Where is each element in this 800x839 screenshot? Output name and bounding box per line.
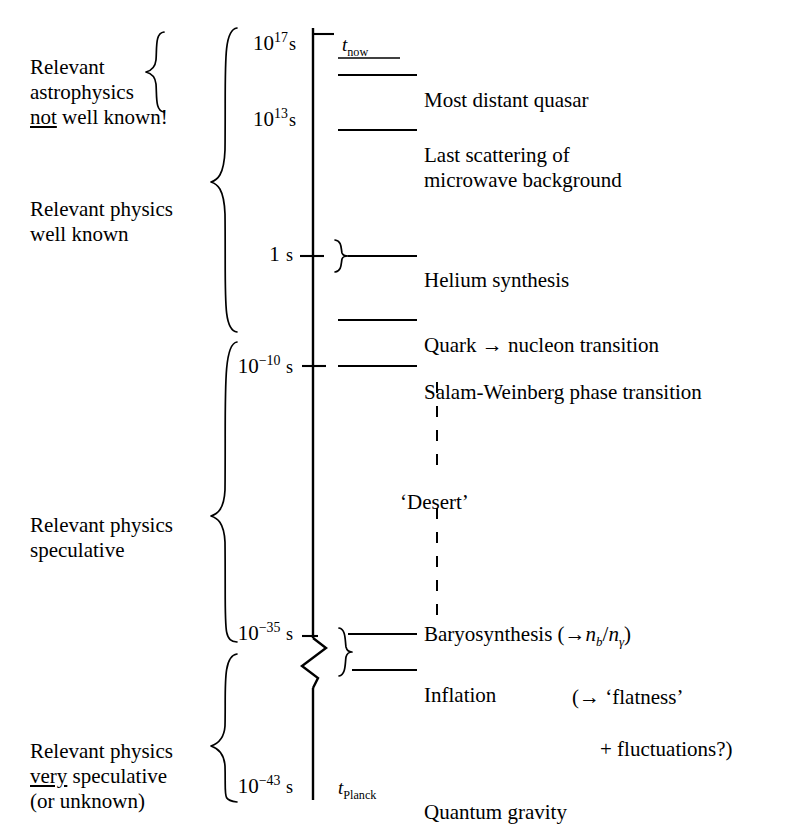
baryosynthesis-inflation-brace xyxy=(339,628,352,676)
brace-physics-well-known xyxy=(211,28,237,332)
cosmology-timeline-figure: Relevant astrophysics not well known! Re… xyxy=(0,0,800,839)
axis-break-zigzag xyxy=(302,638,326,688)
brace-physics-very-speculative xyxy=(211,654,237,802)
brace-physics-speculative xyxy=(211,342,237,642)
helium-synthesis-brace xyxy=(335,240,348,272)
brace-astrophysics-not-well-known xyxy=(146,32,164,112)
diagram-line-art xyxy=(0,0,800,839)
